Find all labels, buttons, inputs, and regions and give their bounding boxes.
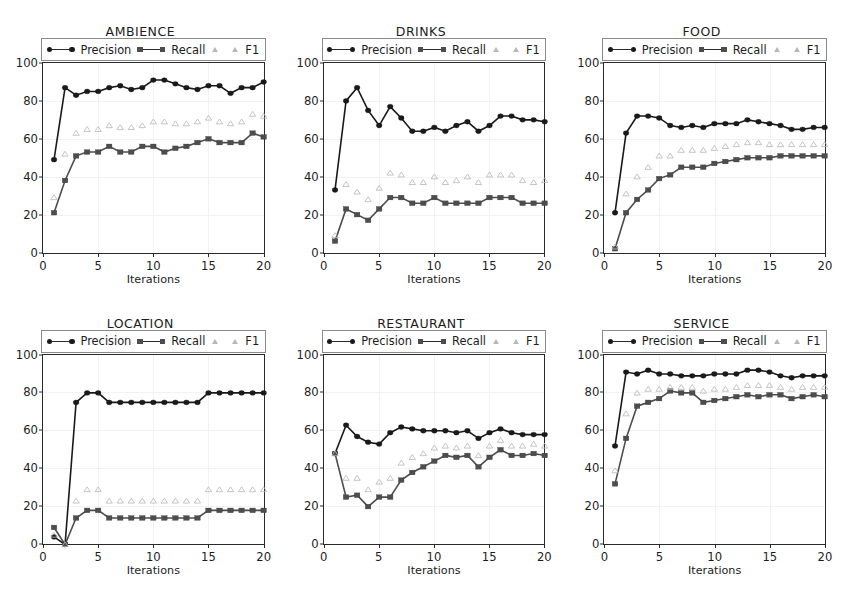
data-point-precision <box>712 371 718 376</box>
cut-caption-text <box>0 0 842 3</box>
data-point-recall <box>767 392 772 397</box>
data-point-f1 <box>778 384 784 389</box>
data-point-precision <box>217 83 223 88</box>
precision-marker-icon <box>47 337 75 346</box>
data-point-f1 <box>365 486 371 491</box>
chart-legend: PrecisionRecallF1 <box>41 38 266 61</box>
data-point-precision <box>508 430 514 435</box>
data-point-f1 <box>800 142 806 147</box>
data-point-recall <box>420 464 425 469</box>
x-axis-tick-mark <box>379 253 380 257</box>
data-point-f1 <box>811 384 817 389</box>
f1-marker-icon <box>773 337 801 346</box>
chart-title: LOCATION <box>0 316 281 331</box>
data-point-recall <box>106 515 111 520</box>
data-point-f1 <box>530 441 536 446</box>
data-point-precision <box>613 210 619 215</box>
data-point-recall <box>62 178 67 183</box>
data-point-precision <box>811 373 817 378</box>
legend-label-precision: Precision <box>78 43 133 57</box>
data-point-recall <box>376 207 381 212</box>
data-point-recall <box>250 131 255 136</box>
data-point-f1 <box>227 121 233 126</box>
plot-area: 02040608010005101520Iterations <box>323 62 546 254</box>
data-point-precision <box>508 114 514 119</box>
x-axis-tick-mark <box>98 544 99 548</box>
data-point-recall <box>531 201 536 206</box>
data-point-precision <box>778 373 784 378</box>
data-point-recall <box>354 212 359 217</box>
data-point-recall <box>668 172 673 177</box>
data-point-recall <box>679 165 684 170</box>
data-point-precision <box>635 114 641 119</box>
data-point-precision <box>657 116 663 121</box>
data-point-precision <box>332 188 338 193</box>
legend-entry-recall: Recall <box>137 334 206 348</box>
data-point-f1 <box>183 498 189 503</box>
legend-label-f1: F1 <box>242 334 260 348</box>
legend-label-recall: Recall <box>168 43 206 57</box>
data-point-f1 <box>541 178 547 183</box>
recall-marker-icon <box>699 337 727 346</box>
data-point-recall <box>84 508 89 513</box>
data-point-f1 <box>723 144 729 149</box>
series-line-recall <box>335 449 545 506</box>
data-point-f1 <box>365 197 371 202</box>
data-point-recall <box>520 201 525 206</box>
data-point-precision <box>668 123 674 128</box>
data-point-precision <box>519 432 525 437</box>
data-point-precision <box>228 91 234 96</box>
data-point-recall <box>701 400 706 405</box>
data-point-precision <box>173 399 179 404</box>
legend-entry-precision: Precision <box>608 334 694 348</box>
data-point-f1 <box>711 146 717 151</box>
data-point-precision <box>789 375 795 380</box>
data-point-precision <box>420 129 426 134</box>
data-point-f1 <box>756 382 762 387</box>
f1-marker-icon <box>492 337 520 346</box>
data-point-f1 <box>689 384 695 389</box>
chart-title: RESTAURANT <box>281 316 562 331</box>
series-line-precision <box>54 392 264 544</box>
data-point-precision <box>106 85 112 90</box>
data-point-recall <box>734 394 739 399</box>
data-point-precision <box>542 119 548 124</box>
data-point-precision <box>195 87 201 92</box>
data-point-precision <box>800 373 806 378</box>
chart-legend: PrecisionRecallF1 <box>602 330 827 353</box>
legend-label-precision: Precision <box>78 334 133 348</box>
data-point-precision <box>646 367 652 372</box>
legend-label-f1: F1 <box>523 43 541 57</box>
data-point-f1 <box>227 486 233 491</box>
data-point-f1 <box>442 180 448 185</box>
legend-label-f1: F1 <box>804 334 822 348</box>
data-point-precision <box>778 123 784 128</box>
data-point-precision <box>84 390 90 395</box>
data-point-recall <box>453 201 458 206</box>
legend-entry-precision: Precision <box>327 43 413 57</box>
data-point-precision <box>431 428 437 433</box>
recall-marker-icon <box>137 45 165 54</box>
data-point-recall <box>398 477 403 482</box>
recall-marker-icon <box>137 337 165 346</box>
data-point-recall <box>723 396 728 401</box>
data-point-precision <box>365 108 371 113</box>
data-point-f1 <box>117 125 123 130</box>
data-point-f1 <box>128 125 134 130</box>
data-point-f1 <box>249 486 255 491</box>
data-point-recall <box>464 201 469 206</box>
data-point-precision <box>420 428 426 433</box>
data-point-recall <box>789 396 794 401</box>
plot-area: 02040608010005101520Iterations <box>603 354 826 546</box>
series-layer <box>324 63 545 253</box>
data-point-recall <box>635 197 640 202</box>
data-point-precision <box>497 426 503 431</box>
data-point-f1 <box>634 174 640 179</box>
data-point-precision <box>365 439 371 444</box>
data-point-recall <box>635 403 640 408</box>
data-point-recall <box>354 492 359 497</box>
data-point-precision <box>635 371 641 376</box>
data-point-precision <box>734 371 740 376</box>
data-point-recall <box>151 515 156 520</box>
data-point-precision <box>95 89 101 94</box>
